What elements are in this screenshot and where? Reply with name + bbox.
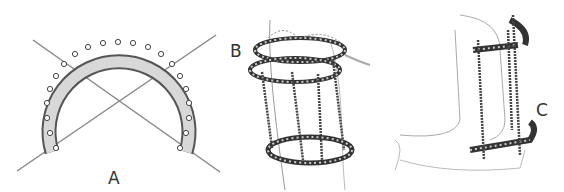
- panel-c-drawing: [400, 15, 534, 170]
- panel-label-c: C: [536, 102, 548, 119]
- panel-label-b: B: [230, 43, 242, 60]
- panel-a-drawing: [17, 35, 220, 172]
- figure: A B C: [0, 0, 564, 192]
- panel-label-a: A: [108, 170, 120, 187]
- illustration: [0, 0, 564, 192]
- panel-b-drawing: [250, 20, 400, 190]
